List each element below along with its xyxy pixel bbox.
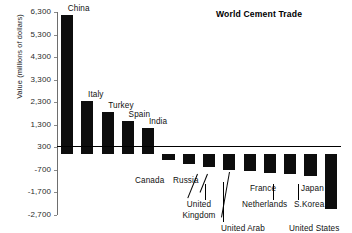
bar-label-italy: Italy — [88, 90, 104, 99]
y-tick-mark — [54, 215, 57, 216]
leader-line — [298, 184, 299, 200]
bar-united-arab-emirates — [223, 154, 235, 170]
bar-russia — [183, 154, 195, 163]
y-tick-label: -700 — [5, 165, 51, 174]
y-tick-mark — [54, 170, 57, 171]
bar-turkey — [102, 112, 114, 154]
bar-label-netherlands: Netherlands — [242, 200, 287, 209]
bar-label-canada: Canada — [135, 176, 164, 185]
leader-line — [273, 184, 274, 200]
bar-india — [142, 128, 154, 154]
bar-label-japan: Japan — [301, 184, 324, 193]
y-tick-label: -1,700 — [5, 187, 51, 196]
y-tick-label: 5,300 — [5, 30, 51, 39]
bar-label-united-arab-emirates: United Arab Emirates — [207, 224, 279, 233]
cement-trade-bar-chart: Value (millions of dollars) World Cement… — [0, 0, 352, 233]
y-tick-mark — [54, 192, 57, 193]
leader-line — [205, 184, 206, 200]
y-tick-mark — [54, 147, 57, 148]
bar-label-united-states: United States — [289, 224, 339, 233]
y-tick-mark — [54, 80, 57, 81]
bar-united-kingdom — [203, 154, 215, 167]
bar-netherlands — [264, 154, 276, 173]
y-tick-label: 1,300 — [5, 120, 51, 129]
bar-canada — [162, 154, 174, 160]
leader-line — [200, 174, 208, 193]
bar-label-india: India — [149, 117, 167, 126]
y-axis-line — [57, 12, 58, 215]
y-tick-label: -2,700 — [5, 210, 51, 219]
y-tick-mark — [54, 125, 57, 126]
bar-china — [61, 15, 73, 154]
y-tick-label: 300 — [5, 142, 51, 151]
bar-label-s-korea: S.Korea — [294, 200, 324, 209]
zero-baseline — [57, 146, 341, 147]
bar-label-spain: Spain — [129, 110, 150, 119]
y-tick-label: 3,300 — [5, 75, 51, 84]
y-tick-mark — [54, 102, 57, 103]
bar-france — [244, 154, 256, 171]
bar-label-turkey: Turkey — [108, 101, 133, 110]
bar-label-united-kingdom: United Kingdom — [175, 200, 223, 221]
y-tick-label: 6,300 — [5, 7, 51, 16]
y-tick-label: 2,300 — [5, 97, 51, 106]
bar-spain — [122, 121, 134, 154]
y-tick-mark — [54, 12, 57, 13]
y-tick-label: 4,300 — [5, 52, 51, 61]
bar-s-korea — [284, 154, 296, 174]
y-tick-mark — [54, 35, 57, 36]
y-tick-mark — [54, 57, 57, 58]
bar-united-states — [325, 154, 337, 209]
bar-label-china: China — [68, 4, 90, 13]
plot-area: 6,3005,3004,3003,3002,3001,300300-700-1,… — [57, 12, 341, 215]
bar-japan — [304, 154, 316, 176]
